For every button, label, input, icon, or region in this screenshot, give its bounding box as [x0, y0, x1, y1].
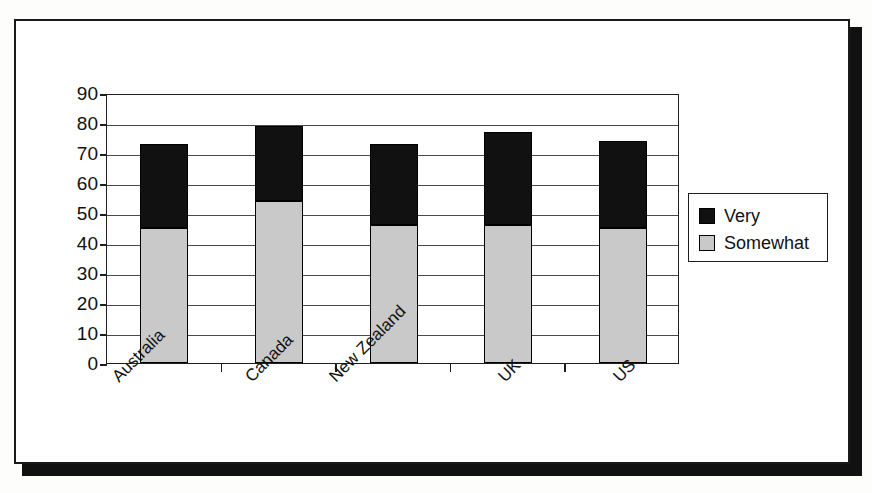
y-axis-tick-mark [100, 364, 107, 366]
y-axis-tick-label: 90 [54, 84, 98, 103]
y-axis-tick-label: 60 [54, 174, 98, 193]
bar-segment-very [255, 126, 303, 201]
legend-item-label: Somewhat [724, 234, 809, 252]
y-axis: 9080706050403020100 [50, 94, 98, 364]
bar-segment-somewhat [599, 228, 647, 363]
figure-frame: 9080706050403020100 AustraliaCanadaNew Z… [14, 19, 850, 464]
legend-swatch-icon [699, 235, 715, 251]
bar-segment-very [599, 141, 647, 228]
chart-legend: VerySomewhat [688, 193, 828, 262]
legend-item: Somewhat [699, 229, 827, 256]
x-axis-tick-mark [221, 364, 223, 372]
bar-segment-somewhat [484, 225, 532, 363]
legend-item-label: Very [724, 207, 760, 225]
figure-root: 9080706050403020100 AustraliaCanadaNew Z… [0, 0, 872, 493]
legend-item: Very [699, 202, 827, 229]
y-axis-tick-label: 10 [54, 324, 98, 343]
bar-group [255, 126, 303, 363]
bar-group [599, 141, 647, 363]
x-axis-tick-mark [564, 364, 566, 372]
bar-group [140, 144, 188, 363]
legend-swatch-icon [699, 208, 715, 224]
bar-segment-very [140, 144, 188, 228]
bar-segment-very [484, 132, 532, 225]
bar-group [484, 132, 532, 363]
y-axis-tick-label: 50 [54, 204, 98, 223]
x-axis-tick-mark [450, 364, 452, 372]
y-axis-tick-label: 30 [54, 264, 98, 283]
gridline [107, 125, 678, 126]
y-axis-tick-label: 0 [54, 354, 98, 373]
y-axis-tick-label: 70 [54, 144, 98, 163]
bar-segment-very [370, 144, 418, 225]
y-axis-tick-label: 40 [54, 234, 98, 253]
y-axis-tick-label: 80 [54, 114, 98, 133]
y-axis-tick-label: 20 [54, 294, 98, 313]
